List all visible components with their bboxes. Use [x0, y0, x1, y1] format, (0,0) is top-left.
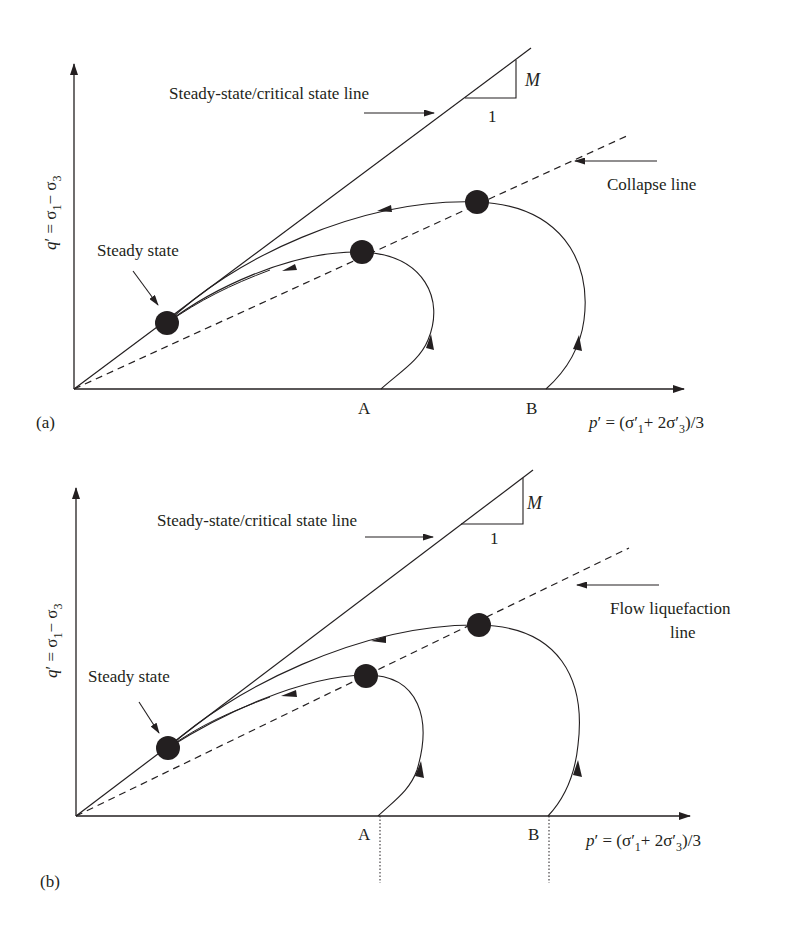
figure-canvas: M 1 Steady-state/critical state line Col… — [0, 0, 797, 927]
steady-state-label: Steady state — [97, 241, 179, 260]
path-a-left-arrowhead — [282, 264, 297, 271]
x-axis-label: p′ = (σ′1+ 2σ′3)/3 — [585, 831, 701, 854]
slope-triangle — [465, 60, 516, 98]
steady-state-pointer-arrow — [133, 271, 158, 305]
steady-state-pointer-arrow — [139, 702, 159, 733]
peak-point-b — [465, 190, 489, 214]
collapse-line — [74, 135, 629, 389]
svg-text:p′ = (σ′1+ 2σ′3)/3: p′ = (σ′1+ 2σ′3)/3 — [585, 831, 701, 854]
y-axis-label: q′ = σ1− σ3 — [41, 176, 64, 251]
slope-m-label: M — [524, 70, 541, 90]
steady-state-label: Steady state — [88, 667, 170, 686]
svg-text:p′ = (σ′1+ 2σ′3)/3: p′ = (σ′1+ 2σ′3)/3 — [588, 413, 704, 436]
steady-state-point — [155, 311, 179, 335]
point-a-label: A — [358, 825, 371, 844]
slope-run-label: 1 — [488, 107, 497, 126]
slope-run-label: 1 — [490, 529, 499, 548]
slope-m-label: M — [526, 493, 543, 513]
point-b-label: B — [528, 825, 539, 844]
panel-label-a: (a) — [36, 413, 55, 432]
point-a-label: A — [358, 399, 371, 418]
panel-b: M 1 Steady-state/critical state line Flo… — [40, 470, 731, 891]
stress-path-b — [167, 202, 585, 389]
panel-a: M 1 Steady-state/critical state line Col… — [36, 48, 704, 436]
point-b-label: B — [526, 399, 537, 418]
stress-path-a — [167, 252, 434, 389]
converging-path — [167, 270, 270, 323]
path-b-left-arrowhead — [377, 205, 392, 212]
flow-liquefaction-label-line2: line — [670, 623, 696, 642]
csl-label: Steady-state/critical state line — [169, 84, 369, 103]
flow-liquefaction-label-line1: Flow liquefaction — [610, 599, 731, 618]
collapse-line-label: Collapse line — [607, 175, 696, 194]
y-axis-label: q′ = σ1− σ3 — [42, 604, 65, 679]
steady-state-point — [156, 736, 180, 760]
svg-text:q′ = σ1− σ3: q′ = σ1− σ3 — [41, 176, 64, 251]
peak-point-b — [467, 613, 491, 637]
peak-point-a — [350, 240, 374, 264]
svg-text:q′ = σ1− σ3: q′ = σ1− σ3 — [42, 604, 65, 679]
csl-label: Steady-state/critical state line — [157, 511, 357, 530]
stress-path-b — [168, 625, 579, 816]
panel-label-b: (b) — [40, 872, 60, 891]
peak-point-a — [354, 664, 378, 688]
x-axis-label: p′ = (σ′1+ 2σ′3)/3 — [588, 413, 704, 436]
converging-path — [168, 697, 270, 748]
path-a-up-arrowhead — [415, 761, 424, 778]
